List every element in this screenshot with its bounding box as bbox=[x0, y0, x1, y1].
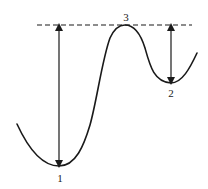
label-point-3: 3 bbox=[123, 11, 129, 23]
energy-diagram: 1 2 3 bbox=[0, 0, 208, 189]
label-point-1: 1 bbox=[57, 172, 63, 184]
label-point-2: 2 bbox=[168, 87, 174, 99]
